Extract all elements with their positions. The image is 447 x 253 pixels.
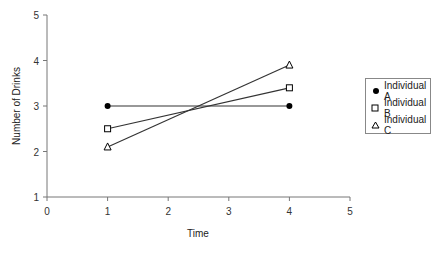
series-individual-b <box>105 85 293 132</box>
filled-circle-icon <box>371 86 380 96</box>
data-point <box>105 126 111 132</box>
data-point <box>286 85 292 91</box>
x-tick-label: 3 <box>226 206 232 217</box>
x-tick-label: 0 <box>44 206 50 217</box>
y-axis-title: Number of Drinks <box>11 67 22 145</box>
plot-area <box>104 61 293 150</box>
data-point <box>286 61 293 68</box>
y-tick-label: 2 <box>33 147 39 158</box>
data-point <box>286 103 292 109</box>
x-tick-label: 5 <box>347 206 353 217</box>
x-tick-label: 1 <box>105 206 111 217</box>
legend-label: Individual C <box>384 114 430 136</box>
x-axis-title: Time <box>187 228 209 239</box>
y-tick-label: 5 <box>33 10 39 21</box>
axes: 12345012345 <box>33 10 353 217</box>
y-tick-label: 1 <box>33 192 39 203</box>
legend: Individual A Individual B Individual C <box>365 78 431 134</box>
x-tick-label: 4 <box>287 206 293 217</box>
open-square-icon <box>371 103 380 113</box>
legend-item-c: Individual C <box>371 116 430 133</box>
y-tick-label: 4 <box>33 56 39 67</box>
data-point <box>105 103 111 109</box>
open-triangle-icon <box>371 120 380 130</box>
x-tick-label: 2 <box>165 206 171 217</box>
series-line <box>108 88 290 129</box>
y-tick-label: 3 <box>33 101 39 112</box>
